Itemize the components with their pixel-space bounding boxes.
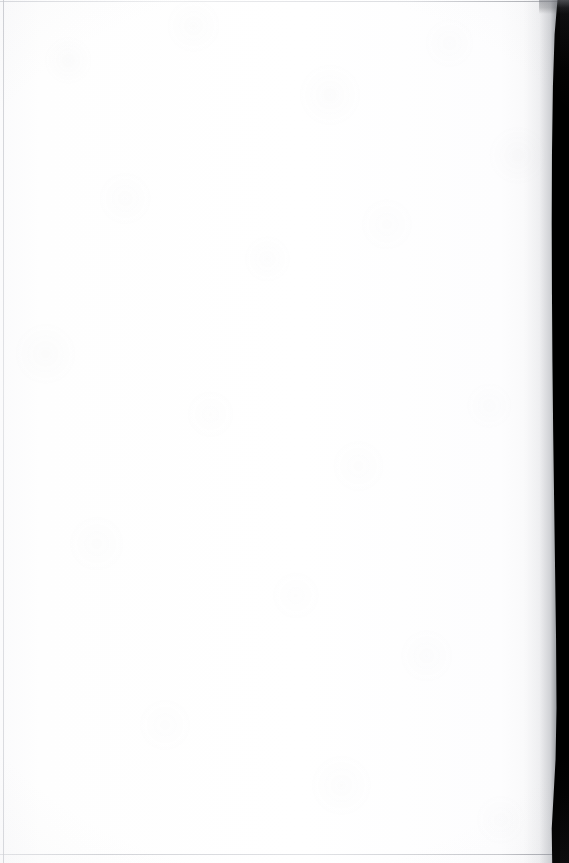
top-trim-edge-line [0,1,569,2]
scanned-page: Blank scanned page with dark scanner gut… [0,0,569,863]
scanner-gutter-core [560,0,569,863]
paper-grain-texture [0,0,569,863]
left-trim-edge-line [3,0,4,863]
scanner-gutter-top-fade [539,0,569,14]
bottom-trim-edge-line [0,854,569,855]
